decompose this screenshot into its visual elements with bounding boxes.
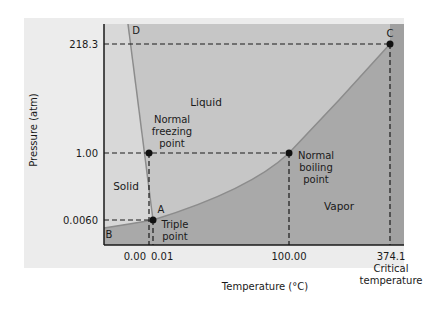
triple-label-1: Triple [161, 219, 189, 230]
critical-point [387, 41, 394, 48]
triple-point [150, 217, 157, 224]
y-tick-1: 1.00 [76, 148, 98, 159]
y-axis-title: Pressure (atm) [28, 93, 39, 167]
y-tick-218: 218.3 [69, 39, 98, 50]
solid-label: Solid [113, 180, 139, 192]
vapor-label: Vapor [324, 200, 355, 212]
freezing-point [146, 150, 153, 157]
phase-diagram: 218.3 1.00 0.0060 0.00 0.01 100.00 374.1… [0, 0, 445, 314]
freezing-label-3: point [159, 138, 185, 149]
supercritical-region [390, 24, 404, 245]
point-a-label: A [158, 204, 165, 215]
x-axis-title: Temperature (°C) [221, 281, 308, 292]
liquid-label: Liquid [190, 96, 222, 108]
boiling-label-2: boiling [299, 162, 333, 173]
critical-label-1: Critical [374, 263, 409, 274]
x-tick-001: 0.01 [151, 251, 173, 262]
triple-label-2: point [162, 231, 188, 242]
freezing-label-1: Normal [154, 114, 190, 125]
point-d-label: D [132, 25, 140, 36]
x-tick-374: 374.1 [377, 251, 406, 262]
x-tick-100: 100.00 [272, 251, 307, 262]
boiling-point [286, 150, 293, 157]
point-b-label: B [106, 229, 113, 240]
freezing-label-2: freezing [152, 126, 192, 137]
x-tick-000: 0.00 [124, 251, 146, 262]
critical-label-2: temperature [360, 275, 423, 286]
y-tick-0006: 0.0060 [63, 215, 98, 226]
boiling-label-1: Normal [298, 150, 334, 161]
boiling-label-3: point [303, 174, 329, 185]
point-c-label: C [387, 28, 394, 39]
